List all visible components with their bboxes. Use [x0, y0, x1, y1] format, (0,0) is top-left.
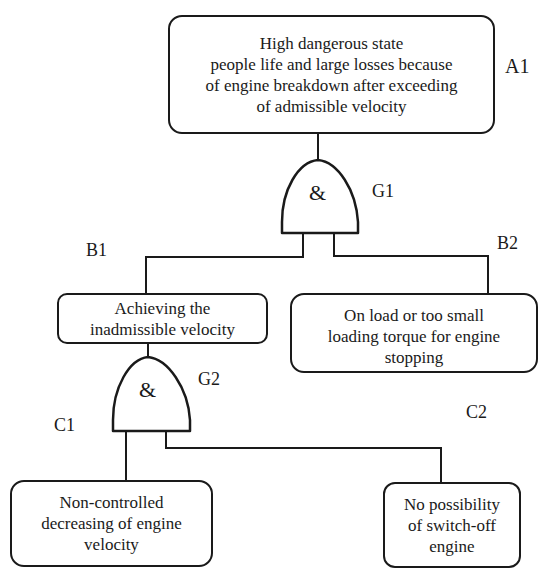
event-b2-line: On load or too small — [344, 305, 484, 326]
event-c1-box: Non-controlled decreasing of engine velo… — [10, 480, 213, 567]
event-a1-line: of admissible velocity — [256, 96, 406, 117]
event-c2-id: C2 — [466, 402, 487, 422]
event-c2-line: No possibility — [404, 494, 500, 515]
gate-g2-id: G2 — [198, 369, 220, 389]
event-c1-id: C1 — [54, 415, 75, 435]
event-c1-line: velocity — [84, 534, 139, 555]
event-b2-id: B2 — [497, 233, 518, 253]
event-a1-id: A1 — [505, 56, 529, 76]
event-c1-line: decreasing of engine — [41, 513, 182, 534]
event-b1-box: Achieving the inadmissible velocity — [57, 293, 268, 344]
wire-g1-b1 — [146, 233, 303, 294]
event-b1-line: inadmissible velocity — [90, 319, 235, 340]
event-c2-line: of switch-off — [408, 515, 496, 536]
event-b2-line: loading torque for engine — [328, 326, 500, 347]
event-c2-box: No possibility of switch-off engine — [383, 482, 521, 568]
event-a1-box: High dangerous state people life and lar… — [168, 15, 495, 134]
wire-g2-c2 — [166, 431, 441, 483]
gate-g1-id: G1 — [372, 181, 394, 201]
gate-g2-symbol: & — [139, 378, 156, 402]
wire-g1-b2 — [334, 233, 488, 294]
event-c2-line: engine — [429, 536, 474, 557]
event-c1-line: Non-controlled — [60, 492, 164, 513]
gate-g1-symbol: & — [309, 181, 326, 205]
event-a1-line: of engine breakdown after exceeding — [205, 75, 457, 96]
event-b2-box: On load or too small loading torque for … — [290, 293, 538, 373]
event-b2-line: stopping — [385, 347, 444, 368]
event-b1-id: B1 — [86, 240, 107, 260]
event-a1-line: people life and large losses because — [211, 54, 453, 75]
event-a1-line: High dangerous state — [260, 33, 404, 54]
event-b1-line: Achieving the — [115, 298, 211, 319]
